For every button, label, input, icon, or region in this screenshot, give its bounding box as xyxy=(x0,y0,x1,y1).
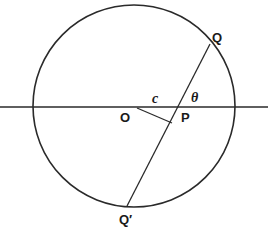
label-c: c xyxy=(152,91,159,106)
label-theta: θ xyxy=(191,90,199,105)
chord-qq-prime xyxy=(127,44,210,206)
circle-chord-diagram: Q Q′ O P c θ xyxy=(0,0,268,234)
perpendicular-from-o xyxy=(137,108,172,123)
label-q: Q xyxy=(212,30,222,45)
label-o: O xyxy=(120,110,130,125)
circle xyxy=(33,5,235,207)
label-q-prime: Q′ xyxy=(119,212,132,227)
label-p: P xyxy=(181,110,190,125)
